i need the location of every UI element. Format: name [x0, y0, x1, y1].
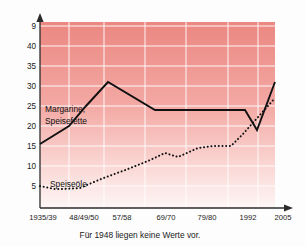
x-tick-label: 79/80: [197, 213, 216, 222]
margarine-label-line2: Speisefette: [45, 116, 87, 126]
x-tick-label: 1935/39: [29, 213, 56, 222]
x-tick-labels: 1935/39 48/49/50 57/58 69/70 79/80 1992 …: [29, 213, 291, 222]
x-tick-label: 57/58: [112, 213, 131, 222]
y-tick-label: 10: [27, 162, 37, 171]
y-tick-label: 35: [27, 62, 37, 71]
chart-caption: Für 1948 liegen keine Werte vor.: [80, 230, 201, 240]
chart-container: 9 40 35 30 25 20 15 10 5 Margarine, Spei…: [0, 0, 305, 246]
x-tick-label: 1992: [240, 213, 257, 222]
x-tick-label: 48/49/50: [69, 213, 99, 222]
speiseoele-label: Speiseöle: [50, 179, 87, 189]
y-tick-label: 40: [27, 42, 37, 51]
y-tick-label: 15: [27, 142, 37, 151]
x-tick-label: 2005: [275, 213, 292, 222]
x-tick-label: 69/70: [156, 213, 175, 222]
y-tick-label: 25: [27, 102, 37, 111]
y-tick-label: 9: [31, 22, 36, 31]
y-tick-label: 5: [31, 182, 36, 191]
y-tick-label: 20: [27, 122, 37, 131]
line-chart: 9 40 35 30 25 20 15 10 5 Margarine, Spei…: [0, 0, 305, 246]
y-tick-label: 30: [27, 82, 37, 91]
y-tick-labels: 9 40 35 30 25 20 15 10 5: [27, 22, 37, 191]
margarine-label-line1: Margarine,: [45, 104, 85, 114]
